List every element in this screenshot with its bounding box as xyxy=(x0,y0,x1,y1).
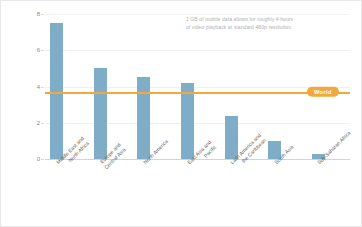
y-tick-mark xyxy=(41,159,44,160)
y-tick-mark xyxy=(41,87,44,88)
annotation-line: 1 GB of mobile data allows for roughly 4… xyxy=(186,16,356,24)
bars-layer xyxy=(45,14,350,159)
y-tick-label: 4 xyxy=(37,84,40,90)
annotation-note: 1 GB of mobile data allows for roughly 4… xyxy=(186,16,356,31)
y-tick-label: 2 xyxy=(37,120,40,126)
annotation-line: of video playback at standard 480p resol… xyxy=(186,24,356,32)
world-reference-line: World xyxy=(45,92,350,94)
bar[interactable] xyxy=(181,83,194,159)
bar[interactable] xyxy=(94,68,107,159)
y-tick-label: 6 xyxy=(37,47,40,53)
plot-area: 02468 World xyxy=(45,14,350,159)
y-tick-mark xyxy=(41,14,44,15)
x-axis-labels: Middle East andNorth AfricaEurope andCen… xyxy=(45,161,350,227)
y-tick-mark xyxy=(41,123,44,124)
y-tick-label: 0 xyxy=(37,156,40,162)
chart-container: Data consumption (GB per capita per mont… xyxy=(0,0,362,227)
y-tick-label: 8 xyxy=(37,11,40,17)
y-tick-mark xyxy=(41,50,44,51)
bar[interactable] xyxy=(137,77,150,159)
world-reference-badge: World xyxy=(307,87,339,98)
